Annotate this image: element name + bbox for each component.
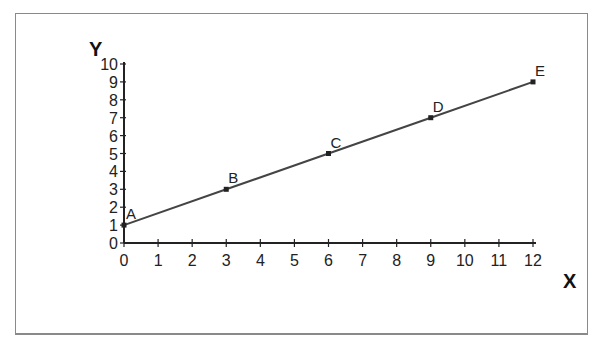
y-tick-label: 4 <box>109 163 118 180</box>
point-label: B <box>228 169 238 186</box>
series-line: ABCDE <box>122 62 546 228</box>
y-tick-label: 8 <box>109 92 118 109</box>
x-tick-label: 5 <box>290 252 299 269</box>
x-tick-label: 11 <box>491 252 508 269</box>
y-tick-label: 7 <box>109 110 118 127</box>
data-point-d <box>428 115 433 120</box>
point-label: A <box>126 205 136 222</box>
point-label: C <box>331 134 342 151</box>
point-label: D <box>433 98 444 115</box>
y-tick-label: 6 <box>109 128 118 145</box>
data-point-a <box>122 223 127 228</box>
x-tick-label: 12 <box>524 252 542 269</box>
x-tick-label: 8 <box>392 252 401 269</box>
x-tick-label: 9 <box>426 252 435 269</box>
y-tick-label: 2 <box>109 199 118 216</box>
y-tick-label: 9 <box>109 74 118 91</box>
data-point-c <box>326 151 331 156</box>
x-tick-label: 6 <box>324 252 333 269</box>
x-tick-label: 3 <box>222 252 231 269</box>
y-tick-label: 1 <box>109 217 118 234</box>
x-tick-label: 10 <box>456 252 474 269</box>
x-tick-label: 2 <box>188 252 197 269</box>
x-tick-label: 1 <box>154 252 163 269</box>
data-point-e <box>531 79 536 84</box>
x-tick-label: 0 <box>120 252 129 269</box>
y-tick-label: 0 <box>109 235 118 252</box>
point-label: E <box>535 62 545 79</box>
y-axis-label: Y <box>89 38 103 60</box>
x-tick-label: 4 <box>256 252 265 269</box>
ticks: 0123456789101112012345678910 <box>100 56 542 269</box>
y-tick-label: 3 <box>109 181 118 198</box>
data-point-b <box>224 187 229 192</box>
y-tick-label: 10 <box>100 56 118 73</box>
line-chart: 0123456789101112012345678910 ABCDE X Y <box>0 0 601 351</box>
x-axis-label: X <box>563 270 577 292</box>
y-tick-label: 5 <box>109 146 118 163</box>
x-tick-label: 7 <box>358 252 367 269</box>
